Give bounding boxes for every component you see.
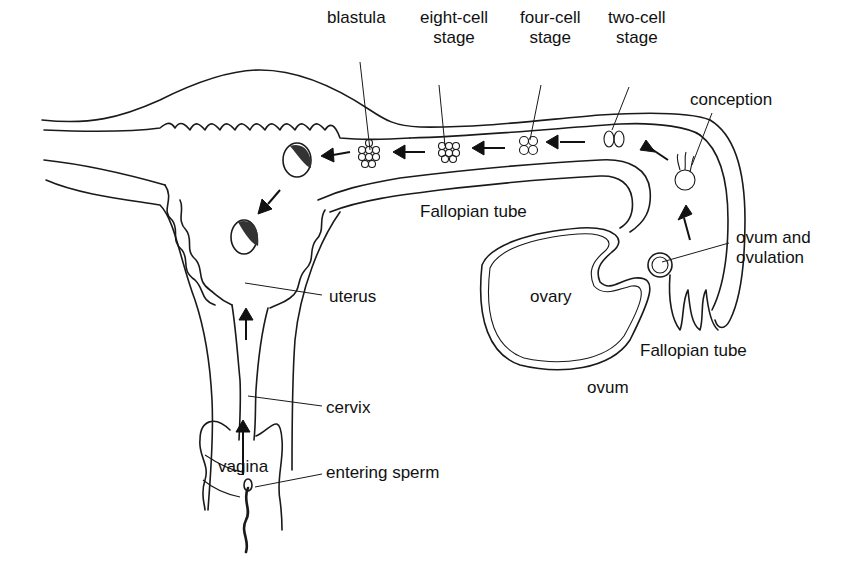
label-ovum-ovulation-line1: ovum and: [736, 228, 811, 248]
label-two-cell: two-cell stage: [608, 8, 666, 48]
label-fallopian-tube-lower: Fallopian tube: [640, 341, 747, 361]
label-cervix: cervix: [326, 398, 370, 418]
label-four-cell-line2: stage: [520, 28, 580, 48]
four-cell-cluster: [520, 137, 538, 155]
endometrium-top: [44, 123, 410, 139]
cervical-canal-left: [232, 305, 240, 440]
two-cell-left: [604, 131, 614, 147]
conception-sperm-tails: [677, 152, 694, 172]
fimbriae: [669, 275, 718, 330]
uterus-left-inner: [46, 180, 213, 510]
diagram-drawing: [0, 0, 856, 579]
eight-cell-cluster: [439, 143, 460, 163]
label-eight-cell-line2: stage: [420, 28, 488, 48]
tube-inner-right: [700, 135, 728, 310]
label-four-cell-line1: four-cell: [520, 8, 580, 28]
label-eight-cell: eight-cell stage: [420, 8, 488, 48]
label-two-cell-line1: two-cell: [608, 8, 666, 28]
conception-cell: [675, 170, 695, 190]
label-ovum: ovum: [587, 378, 629, 398]
label-uterus: uterus: [329, 287, 376, 307]
label-conception: conception: [690, 90, 772, 110]
label-ovary: ovary: [530, 287, 572, 307]
uterus-top-outer: [42, 70, 710, 127]
label-blastula: blastula: [327, 8, 386, 28]
label-four-cell: four-cell stage: [520, 8, 580, 48]
sperm-tail: [244, 488, 248, 552]
label-entering-sperm: entering sperm: [326, 463, 439, 483]
label-two-cell-line2: stage: [608, 28, 666, 48]
label-vagina: vagina: [218, 457, 268, 477]
uterine-cavity-left: [180, 200, 232, 305]
label-fallopian-tube-upper: Fallopian tube: [420, 202, 527, 222]
uterus-right-outer: [292, 212, 340, 470]
label-ovum-ovulation: ovum and ovulation: [736, 228, 811, 268]
blastocyst-2-mass: [238, 221, 258, 246]
label-ovum-ovulation-line2: ovulation: [736, 248, 811, 268]
arrows: [236, 135, 692, 475]
cervical-canal-right: [254, 308, 268, 440]
tube-lumen-top: [410, 124, 700, 138]
ovum-cell: [652, 257, 668, 273]
two-cell-right: [614, 131, 624, 147]
label-eight-cell-line1: eight-cell: [420, 8, 488, 28]
uterine-cavity-right: [270, 210, 325, 308]
reproductive-diagram: blastula eight-cell stage four-cell stag…: [0, 0, 856, 579]
uterus-left-outer: [44, 160, 165, 185]
